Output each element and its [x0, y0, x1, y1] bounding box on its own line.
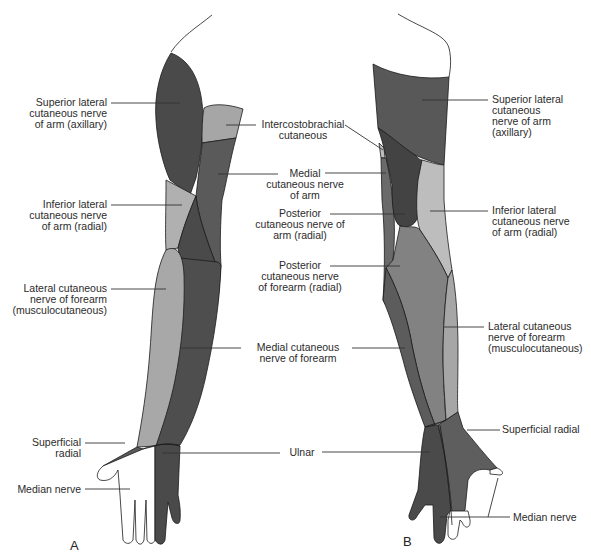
label-ulnar: Ulnar — [282, 447, 322, 458]
label-b-superior-lateral: Superior lateral cutaneous nerve of arm … — [492, 94, 563, 138]
panel-letter-a: A — [70, 538, 79, 553]
panel-letter-b: B — [403, 534, 412, 549]
label-b-median: Median nerve — [513, 512, 577, 523]
a-region-ulnar — [155, 444, 180, 544]
label-medial-forearm: Medial cutaneous nerve of forearm — [246, 342, 350, 364]
label-b-superficial-radial: Superficial radial — [502, 424, 580, 435]
label-a-inferior-lateral: Inferior lateral cutaneous nerve of arm … — [29, 199, 107, 232]
label-posterior-arm: Posterior cutaneous nerve of arm (radial… — [250, 208, 350, 241]
label-intercostobrachial: Intercostobrachial cutaneous — [258, 119, 348, 141]
leader-intercostobrachial-b — [345, 125, 383, 150]
b-thumb-tip — [490, 468, 503, 475]
label-posterior-forearm: Posterior cutaneous nerve of forearm (ra… — [250, 260, 350, 293]
a-region-superior-lateral — [156, 53, 203, 195]
label-a-superior-lateral: Superior lateral cutaneous nerve of arm … — [29, 97, 107, 130]
b-shoulder-contour — [398, 14, 451, 77]
label-a-lateral-forearm: Lateral cutaneous nerve of forearm (musc… — [12, 283, 107, 316]
a-region-median-hand — [97, 446, 155, 544]
a-region-intercostobrachial — [202, 105, 243, 143]
label-medial-arm: Medial cutaneous nerve of arm — [260, 168, 350, 201]
label-a-superficial-radial: Superficial radial — [32, 437, 81, 459]
label-a-median: Median nerve — [17, 484, 81, 495]
a-shoulder-contour — [171, 15, 212, 52]
label-b-lateral-forearm: Lateral cutaneous nerve of forearm (musc… — [488, 321, 583, 354]
label-b-inferior-lateral: Inferior lateral cutaneous nerve of arm … — [492, 205, 570, 238]
